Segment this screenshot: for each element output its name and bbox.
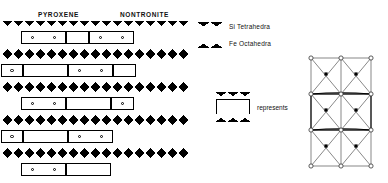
cation-site-circle: [78, 135, 81, 138]
filled-atom-marker: [324, 108, 327, 111]
cation-site-circle: [121, 36, 124, 39]
cation-site-circle: [121, 102, 124, 105]
represents-octahedral-box-icon: [216, 99, 250, 115]
cation-site-circle: [53, 102, 56, 105]
filled-atom-marker: [354, 144, 357, 147]
legend-label-si-tetrahedra: Si Tetrahedra: [229, 23, 270, 30]
octahedral-box: [111, 97, 134, 110]
cation-site-circle: [100, 69, 103, 72]
fe-octahedra-icon: [2, 109, 190, 120]
octahedral-box: [1, 130, 23, 143]
crystal-lattice-diagram: [296, 52, 386, 176]
cation-site-circle: [78, 69, 81, 72]
octahedral-box: [1, 64, 23, 77]
octahedral-box: [23, 130, 68, 143]
octahedral-box: [66, 97, 111, 110]
tetrahedral-sheet-row: [2, 109, 190, 120]
represents-symbol: [215, 92, 251, 122]
open-vertex-circle: [309, 164, 313, 168]
legend-item-fe-octahedra: Fe Octahedra: [197, 39, 271, 48]
open-vertex-circle: [339, 128, 343, 132]
cation-site-circle: [31, 102, 34, 105]
open-vertex-circle: [339, 164, 343, 168]
octahedral-box: [21, 163, 66, 176]
nontronite-label: NONTRONITE: [120, 11, 169, 18]
filled-atom-marker: [324, 72, 327, 75]
represents-bottom-tetrahedra-icon: [215, 114, 251, 122]
cation-site-circle: [10, 69, 13, 72]
tetrahedral-sheet-row: [2, 142, 190, 153]
cation-site-circle: [31, 36, 34, 39]
cation-site-circle: [99, 36, 102, 39]
open-vertex-circle: [339, 92, 343, 96]
octahedral-box: [66, 31, 89, 44]
octahedral-box: [23, 64, 68, 77]
octahedral-box: [89, 31, 134, 44]
open-vertex-circle: [369, 128, 373, 132]
octahedral-box: [21, 97, 66, 110]
fe-octahedra-icon: [197, 39, 223, 48]
cation-site-circle: [31, 168, 34, 171]
cation-site-circle: [53, 168, 56, 171]
represents-label: represents: [257, 104, 288, 111]
open-vertex-circle: [309, 128, 313, 132]
open-vertex-circle: [309, 92, 313, 96]
tetrahedral-sheet-row: [2, 76, 190, 87]
octahedral-box: [68, 130, 113, 143]
fe-octahedra-icon: [2, 43, 190, 54]
filled-atom-marker: [354, 72, 357, 75]
legend-label-fe-octahedra: Fe Octahedra: [229, 40, 271, 47]
filled-atom-marker: [354, 108, 357, 111]
octahedral-box: [66, 163, 111, 176]
open-vertex-circle: [369, 56, 373, 60]
octahedral-box: [68, 64, 113, 77]
figure-root: PYROXENE NONTRONITE Si Tetrahedra Fe Oct…: [0, 0, 388, 183]
layer-stack-diagram: [0, 21, 196, 183]
pyroxene-label: PYROXENE: [38, 11, 79, 18]
fe-octahedra-icon: [2, 142, 190, 153]
open-vertex-circle: [309, 56, 313, 60]
cation-site-circle: [100, 135, 103, 138]
octahedral-box: [113, 64, 136, 77]
cation-site-circle: [10, 135, 13, 138]
filled-atom-marker: [324, 144, 327, 147]
octahedral-box: [21, 31, 66, 44]
legend-item-si-tetrahedra: Si Tetrahedra: [197, 22, 270, 31]
si-tetrahedra-icon: [197, 22, 223, 31]
tetrahedral-sheet-row: [2, 43, 190, 54]
cation-site-circle: [53, 36, 56, 39]
open-vertex-circle: [339, 56, 343, 60]
open-vertex-circle: [369, 92, 373, 96]
open-vertex-circle: [369, 164, 373, 168]
fe-octahedra-icon: [2, 76, 190, 87]
legend: Si Tetrahedra Fe Octahedra: [197, 22, 307, 68]
